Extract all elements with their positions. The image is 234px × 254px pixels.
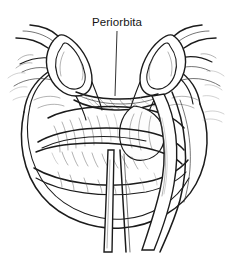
illustration-figure: Periorbita: [0, 0, 234, 254]
illustration-canvas: Periorbita: [0, 0, 234, 254]
label-periorbita: Periorbita: [92, 16, 143, 28]
